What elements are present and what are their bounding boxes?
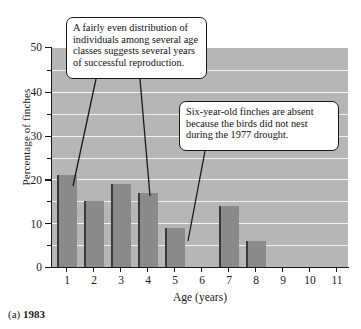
y-tick-10 [45,223,52,224]
figure-caption: (a) 1983 [8,308,45,320]
y-tick-0 [45,267,52,268]
callout-line: during the 1977 drought. [186,129,332,141]
y-tick-25 [47,158,52,159]
x-tick-label-2: 2 [82,274,106,286]
x-tick-label-6: 6 [190,274,214,286]
x-tick-label-7: 7 [217,274,241,286]
bar-age-2 [84,201,104,267]
y-axis-title: Percentage of finches [20,67,32,207]
callout-line: Six-year-old finches are absent [186,106,332,118]
caption-prefix: (a) [8,308,20,320]
bar-age-5 [165,228,185,267]
callout-line: individuals among several age [73,34,200,46]
x-tick-9 [282,267,283,272]
y-tick-label-0: 0 [36,262,42,274]
x-axis-title: Age (years) [52,291,348,303]
x-tick-label-9: 9 [271,274,295,286]
callout-line: of successful reproduction. [73,57,200,69]
x-tick-1 [66,267,67,272]
bar-age-3 [111,184,131,267]
y-tick-15 [47,201,52,202]
caption-year: 1983 [23,308,45,320]
x-tick-label-4: 4 [136,274,160,286]
y-tick-5 [47,245,52,246]
y-tick-label-40: 40 [31,87,43,99]
callout-line: classes suggests several years [73,45,200,57]
bar-age-1 [57,175,77,267]
y-tick-label-10: 10 [31,219,43,231]
y-tick-50 [45,47,52,48]
y-tick-label-30: 30 [31,131,43,143]
callout-line: because the birds did not nest [186,118,332,130]
callout-line: A fairly even distribution of [73,22,200,34]
y-tick-40 [45,92,52,93]
y-tick-35 [47,114,52,115]
callout-even-distribution: A fairly even distribution of individual… [66,17,207,79]
bar-age-8 [246,241,266,267]
x-tick-3 [120,267,121,272]
x-axis-line [51,267,349,268]
x-tick-label-8: 8 [244,274,268,286]
callout-six-year-old-absent: Six-year-old finches are absent because … [179,101,339,151]
bar-age-7 [219,206,239,267]
gridline-40 [52,92,348,93]
y-tick-30 [45,136,52,137]
x-tick-label-3: 3 [109,274,133,286]
bar-age-4 [138,193,158,267]
x-tick-2 [93,267,94,272]
x-tick-8 [255,267,256,272]
x-tick-10 [309,267,310,272]
x-tick-6 [201,267,202,272]
x-tick-4 [147,267,148,272]
y-tick-label-50: 50 [31,42,43,54]
figure-1983-finch-age-distribution: 50 40 30 20 10 0 1 2 3 4 5 6 7 8 9 10 11… [0,0,361,329]
y-tick-45 [47,70,52,71]
x-tick-7 [228,267,229,272]
y-tick-label-20: 20 [31,175,43,187]
y-tick-20 [45,179,52,180]
x-tick-11 [336,267,337,272]
plot-area [52,48,348,267]
x-tick-5 [174,267,175,272]
gridline-25 [52,158,348,159]
gridline-20 [52,179,348,180]
x-tick-label-10: 10 [298,274,322,286]
x-tick-label-5: 5 [163,274,187,286]
x-tick-label-1: 1 [55,274,79,286]
x-tick-label-11: 11 [325,274,349,286]
